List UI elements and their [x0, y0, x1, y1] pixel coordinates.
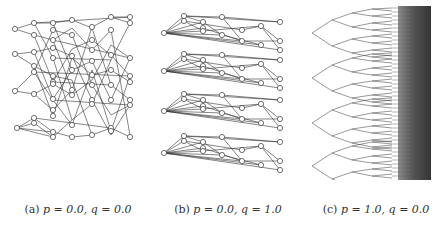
- caption-a-params: p = 0.0, q = 0.0: [43, 203, 131, 216]
- panel-b-graph: [150, 0, 300, 180]
- panel-c-graph: [295, 0, 444, 180]
- graph-c-svg: [295, 0, 444, 180]
- caption-c-label: (c): [323, 203, 338, 216]
- caption-b-label: (b): [174, 203, 190, 216]
- caption-c: (c) p = 1.0, q = 0.0: [316, 203, 436, 216]
- caption-b-params: p = 0.0, q = 1.0: [193, 203, 281, 216]
- caption-a: (a) p = 0.0, q = 0.0: [18, 203, 138, 216]
- graph-b-svg: [150, 0, 300, 180]
- graph-a-svg: [0, 0, 150, 180]
- caption-c-params: p = 1.0, q = 0.0: [341, 203, 429, 216]
- caption-b: (b) p = 0.0, q = 1.0: [168, 203, 288, 216]
- caption-a-label: (a): [24, 203, 39, 216]
- panel-a-graph: [0, 0, 150, 180]
